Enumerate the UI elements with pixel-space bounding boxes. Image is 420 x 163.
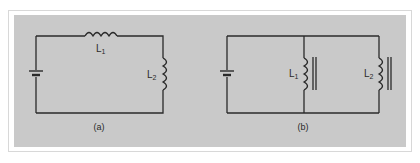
inductor-l1-coil-icon bbox=[304, 58, 308, 90]
circuit-diagrams: L1 L2 (a) L1 L2 (b) bbox=[0, 0, 420, 163]
iron-core-icon bbox=[388, 57, 391, 90]
caption-b: (b) bbox=[298, 122, 309, 132]
wire bbox=[117, 36, 163, 58]
caption-a: (a) bbox=[94, 122, 105, 132]
inductor-l1-coil-icon bbox=[85, 33, 117, 37]
inductor-l1-label: L1 bbox=[96, 43, 106, 55]
inductor-l2-label: L2 bbox=[364, 68, 374, 80]
inductor-l1-label: L1 bbox=[289, 68, 299, 80]
battery-icon bbox=[29, 71, 43, 75]
wire bbox=[36, 90, 163, 113]
battery-icon bbox=[220, 71, 234, 75]
inductor-l2-coil-icon bbox=[163, 58, 167, 90]
iron-core-icon bbox=[313, 57, 316, 90]
inductor-l2-label: L2 bbox=[147, 69, 157, 81]
inductor-l2-coil-icon bbox=[379, 58, 383, 90]
